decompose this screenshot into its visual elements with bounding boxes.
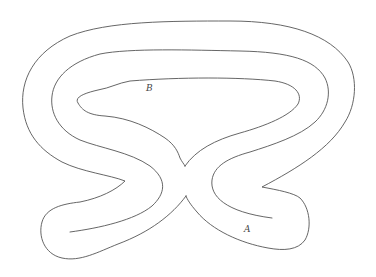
region-label-a: A [244, 225, 251, 234]
diagram-canvas [0, 0, 376, 277]
region-label-b: B [146, 84, 153, 93]
middle-path-curve [52, 50, 329, 232]
outer-boundary-curve [23, 21, 355, 259]
inner-loop-b-curve [77, 78, 299, 166]
